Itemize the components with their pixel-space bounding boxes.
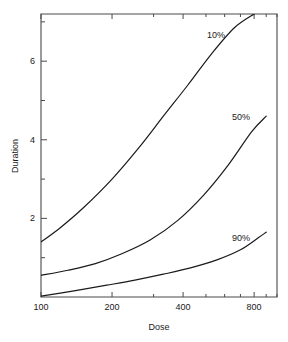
y-axis-tick-labels: 246	[30, 56, 35, 223]
plot-border	[41, 14, 277, 297]
chart-canvas: 100200400800 246 10%50%90% Dose Duration	[0, 0, 288, 342]
series-curve-50	[41, 116, 266, 275]
x-tick-label: 200	[105, 302, 120, 312]
y-axis-title: Duration	[10, 139, 20, 173]
plot-frame	[41, 14, 277, 297]
series-labels: 10%50%90%	[207, 30, 250, 243]
x-axis-title: Dose	[148, 322, 169, 332]
x-tick-label: 100	[33, 302, 48, 312]
series-curve-10	[41, 14, 254, 242]
x-tick-label: 400	[176, 302, 191, 312]
x-axis-ticks	[41, 14, 277, 297]
y-tick-label: 4	[30, 135, 35, 145]
series-label-90: 90%	[232, 233, 250, 243]
series-label-50: 50%	[232, 112, 250, 122]
x-tick-label: 800	[247, 302, 262, 312]
y-tick-label: 6	[30, 56, 35, 66]
series-label-10: 10%	[207, 30, 225, 40]
y-axis-ticks	[41, 22, 47, 258]
chart-figure: 100200400800 246 10%50%90% Dose Duration	[0, 0, 288, 342]
data-curves	[41, 14, 266, 296]
y-tick-label: 2	[30, 213, 35, 223]
x-axis-tick-labels: 100200400800	[33, 302, 261, 312]
